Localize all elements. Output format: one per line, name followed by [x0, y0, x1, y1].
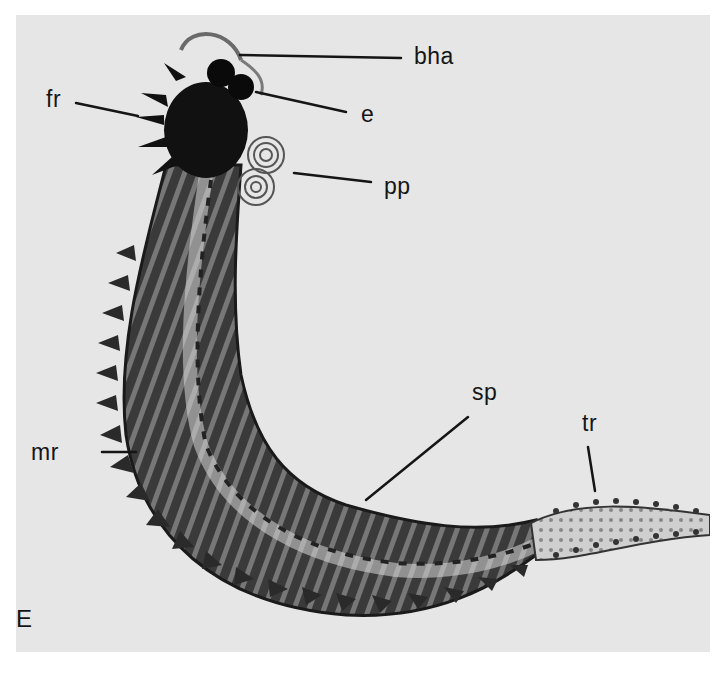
label-mr: mr — [31, 441, 59, 464]
panel-letter: E — [16, 607, 32, 631]
figure-panel: bha e fr pp sp tr mr E — [16, 15, 710, 652]
label-sp: sp — [472, 381, 497, 404]
label-e: e — [361, 103, 374, 126]
label-tr: tr — [582, 412, 597, 435]
label-pp: pp — [384, 175, 411, 198]
label-bha: bha — [414, 45, 454, 68]
label-fr: fr — [46, 88, 61, 111]
